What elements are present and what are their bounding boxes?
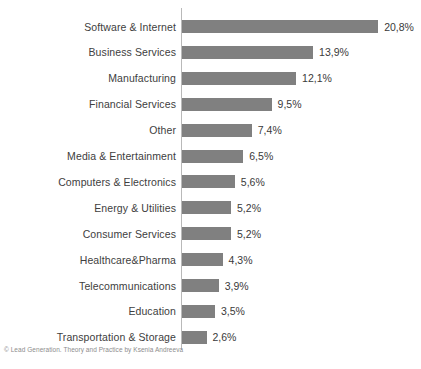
bar-track: 5,2% — [182, 201, 261, 214]
bar-category-label: Consumer Services — [6, 228, 176, 240]
bar-value-label: 5,2% — [237, 228, 261, 240]
bar-row: Consumer Services5,2% — [0, 221, 421, 246]
bar-fill — [182, 175, 235, 188]
bar-category-label: Business Services — [6, 46, 176, 58]
bar-track: 4,3% — [182, 253, 252, 266]
bar-value-label: 12,1% — [302, 72, 332, 84]
bar-track: 5,2% — [182, 227, 261, 240]
bar-track: 9,5% — [182, 98, 302, 111]
bar-fill — [182, 305, 215, 318]
bar-track: 5,6% — [182, 175, 265, 188]
credit-text: © Lead Generation. Theory and Practice b… — [4, 345, 183, 354]
bar-category-label: Education — [6, 305, 176, 317]
bar-row: Energy & Utilities5,2% — [0, 195, 421, 220]
bar-value-label: 5,2% — [237, 202, 261, 214]
bar-fill — [182, 227, 231, 240]
bar-track: 20,8% — [182, 20, 414, 33]
bar-row: Other7,4% — [0, 118, 421, 143]
bar-category-label: Software & Internet — [6, 21, 176, 33]
bar-fill — [182, 331, 207, 344]
bar-row: Financial Services9,5% — [0, 92, 421, 117]
bar-fill — [182, 124, 252, 137]
bar-value-label: 13,9% — [319, 46, 349, 58]
bar-category-label: Computers & Electronics — [6, 176, 176, 188]
bar-row: Telecommunications3,9% — [0, 273, 421, 298]
bar-value-label: 3,9% — [225, 280, 249, 292]
bar-fill — [182, 279, 219, 292]
bar-category-label: Media & Entertainment — [6, 150, 176, 162]
bar-track: 2,6% — [182, 331, 236, 344]
bar-category-label: Financial Services — [6, 98, 176, 110]
bar-value-label: 6,5% — [249, 150, 273, 162]
bar-category-label: Other — [6, 124, 176, 136]
bar-row: Media & Entertainment6,5% — [0, 144, 421, 169]
bar-row: Computers & Electronics5,6% — [0, 169, 421, 194]
bar-category-label: Energy & Utilities — [6, 202, 176, 214]
bar-track: 3,5% — [182, 305, 245, 318]
bar-row: Software & Internet20,8% — [0, 14, 421, 39]
bar-chart: Software & Internet20,8%Business Service… — [0, 0, 421, 369]
bar-fill — [182, 98, 272, 111]
bar-value-label: 20,8% — [384, 21, 414, 33]
bar-value-label: 7,4% — [258, 124, 282, 136]
plot-area: Software & Internet20,8%Business Service… — [0, 0, 421, 350]
bar-value-label: 2,6% — [213, 331, 237, 343]
bar-row: Manufacturing12,1% — [0, 66, 421, 91]
bar-row: Healthcare&Pharma4,3% — [0, 247, 421, 272]
bar-row: Business Services13,9% — [0, 40, 421, 65]
bar-category-label: Manufacturing — [6, 72, 176, 84]
bar-value-label: 3,5% — [221, 305, 245, 317]
bar-category-label: Telecommunications — [6, 280, 176, 292]
bar-track: 12,1% — [182, 72, 332, 85]
bar-fill — [182, 201, 231, 214]
bar-category-label: Transportation & Storage — [6, 331, 176, 343]
bar-value-label: 9,5% — [278, 98, 302, 110]
bar-track: 7,4% — [182, 124, 282, 137]
bar-value-label: 4,3% — [229, 254, 253, 266]
bar-fill — [182, 46, 313, 59]
bar-track: 13,9% — [182, 46, 349, 59]
bar-fill — [182, 72, 296, 85]
bar-value-label: 5,6% — [241, 176, 265, 188]
bar-fill — [182, 20, 378, 33]
bar-fill — [182, 150, 243, 163]
bar-category-label: Healthcare&Pharma — [6, 254, 176, 266]
bar-track: 6,5% — [182, 150, 273, 163]
bar-track: 3,9% — [182, 279, 249, 292]
bar-fill — [182, 253, 223, 266]
bar-row: Education3,5% — [0, 299, 421, 324]
